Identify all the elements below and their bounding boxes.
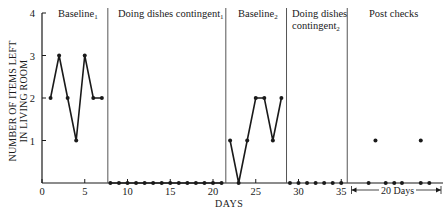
phase-label-subscript: 1 <box>94 13 98 21</box>
data-point <box>151 181 155 185</box>
data-point <box>168 181 172 185</box>
x-tick-label: 0 <box>39 186 44 197</box>
phase-label-text-line1: Doing dishes <box>292 8 347 20</box>
phase-label-contingent-2: Doing dishes contingent2 <box>292 8 347 35</box>
data-point <box>367 181 371 185</box>
data-point <box>419 139 423 143</box>
y-axis-title-line2: IN LIVING ROOM <box>18 21 29 181</box>
data-point <box>91 96 95 100</box>
arrowhead-left-icon <box>352 188 357 193</box>
x-tick-label: 30 <box>293 186 304 197</box>
y-tick-label: 1 <box>30 136 35 147</box>
phase-label-subscript: 2 <box>274 13 278 21</box>
x-tick-label: 10 <box>122 186 133 197</box>
phase-label-subscript: 1 <box>220 13 224 21</box>
y-axis-title: NUMBER OF ITEMS LEFT IN LIVING ROOM <box>7 21 29 181</box>
phase-label-subscript: 2 <box>336 25 340 33</box>
range-annotation-label: 20 Days <box>379 185 416 196</box>
data-point <box>279 96 283 100</box>
data-point <box>220 181 224 185</box>
data-point <box>419 181 423 185</box>
y-tick-label: 4 <box>30 8 36 19</box>
phase-label-text: Doing dishes contingent <box>118 8 220 19</box>
phase-label-text: Baseline <box>58 8 94 19</box>
data-point <box>305 181 309 185</box>
data-point <box>100 96 104 100</box>
data-point <box>134 181 138 185</box>
x-axis-title: DAYS <box>215 198 243 209</box>
data-point <box>185 181 189 185</box>
data-point <box>322 181 326 185</box>
data-point <box>237 181 241 185</box>
data-point <box>108 181 112 185</box>
phase-label-contingent-1: Doing dishes contingent1 <box>118 8 224 23</box>
data-point <box>427 181 431 185</box>
data-point <box>194 181 198 185</box>
data-point <box>314 181 318 185</box>
data-point <box>271 139 275 143</box>
phase-label-baseline-1: Baseline1 <box>58 8 98 23</box>
data-point <box>126 181 130 185</box>
phase-label-text-line2: contingent2 <box>292 20 347 35</box>
y-axis-title-line1: NUMBER OF ITEMS LEFT <box>7 21 18 181</box>
data-point <box>228 139 232 143</box>
data-point <box>373 139 377 143</box>
phase-label-text: Post checks <box>369 8 418 19</box>
data-point <box>143 181 147 185</box>
data-point <box>297 181 301 185</box>
x-tick-label: 20 <box>208 186 219 197</box>
data-point <box>177 181 181 185</box>
data-point <box>245 139 249 143</box>
data-point <box>66 96 70 100</box>
phase-label-post-checks: Post checks <box>369 8 418 20</box>
data-point <box>74 139 78 143</box>
data-point <box>211 181 215 185</box>
data-point <box>117 181 121 185</box>
data-point <box>339 181 343 185</box>
y-tick-label: 3 <box>30 51 35 62</box>
phase-label-baseline-2: Baseline2 <box>238 8 278 23</box>
x-tick-label: 35 <box>336 186 347 197</box>
y-tick-label: 2 <box>30 93 35 104</box>
data-point <box>288 181 292 185</box>
x-tick-label: 25 <box>251 186 262 197</box>
data-point <box>49 96 53 100</box>
data-point <box>83 54 87 58</box>
data-point <box>254 96 258 100</box>
data-point <box>202 181 206 185</box>
data-point <box>57 54 61 58</box>
x-tick-label: 5 <box>82 186 87 197</box>
data-point <box>160 181 164 185</box>
phase-label-text: contingent <box>292 20 336 31</box>
x-tick-label: 15 <box>165 186 176 197</box>
phase-label-text: Baseline <box>238 8 274 19</box>
chart-plot: 123405101520253035 <box>0 0 445 213</box>
data-point <box>331 181 335 185</box>
arrowhead-right-icon <box>436 188 441 193</box>
data-point <box>262 96 266 100</box>
